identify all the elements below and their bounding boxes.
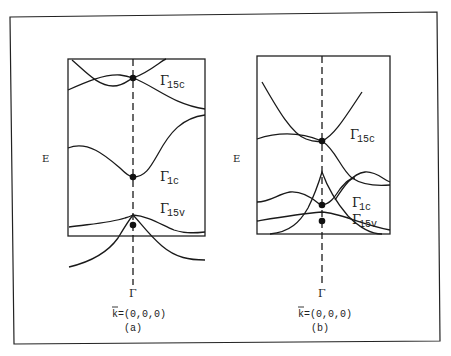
svg-text:k=(0,0,0): k=(0,0,0) (112, 309, 166, 320)
panel-b-dot-15c (319, 138, 326, 145)
svg-text:k=(0,0,0): k=(0,0,0) (298, 309, 352, 320)
panel-a-band-15v-heavy (69, 215, 205, 267)
panel-a-dot-15c (130, 75, 137, 82)
panel-b-dot-15v (319, 218, 326, 225)
svg-text:15c: 15c (357, 134, 375, 145)
panel-a-dot-1c (130, 174, 137, 181)
svg-text:15c: 15c (167, 80, 185, 91)
panel-a-k-label: k=(0,0,0) (112, 307, 166, 320)
panel-a-gamma-tick: Γ (129, 287, 137, 300)
panel-a-state-1c: Γ 1c (160, 169, 179, 187)
panel-a-state-15c: Γ 15c (160, 73, 185, 91)
svg-text:15v: 15v (359, 219, 377, 230)
panel-b: E Γ 15c Γ 1c Γ 15v Γ k=(0,0,0) (b) (233, 56, 390, 334)
panel-b-gamma-tick: Γ (318, 287, 326, 300)
panel-b-state-1c: Γ 1c (352, 195, 371, 213)
panel-b-caption: (b) (311, 323, 329, 334)
panel-a-band-1c (68, 115, 205, 177)
panel-b-band-15c-parabola (262, 82, 362, 142)
panel-a-state-15v: Γ 15v (160, 201, 185, 219)
svg-text:1c: 1c (167, 176, 179, 187)
panel-a-dot-15v (130, 222, 137, 229)
panel-b-dot-1c (319, 202, 326, 209)
panel-b-e-axis-label: E (233, 153, 240, 164)
panel-b-k-label: k=(0,0,0) (298, 307, 352, 320)
panel-b-state-15c: Γ 15c (350, 127, 375, 145)
svg-text:15v: 15v (167, 208, 185, 219)
panel-a-caption: (a) (124, 323, 142, 334)
panel-a-e-axis-label: E (42, 153, 49, 164)
panel-a: E Γ 15c Γ 1c Γ 15v Γ k=(0,0,0) (a) (42, 59, 205, 334)
panel-b-state-15v: Γ 15v (352, 212, 377, 230)
band-structure-figure: E Γ 15c Γ 1c Γ 15v Γ k=(0,0,0) (a) (0, 0, 451, 356)
